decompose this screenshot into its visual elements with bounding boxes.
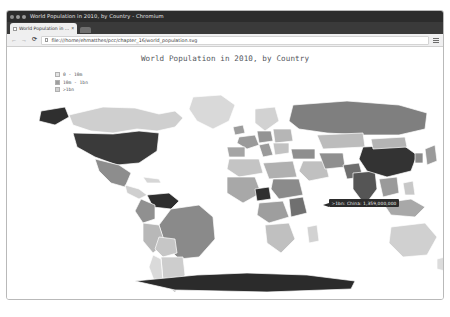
tab-close-icon[interactable]: × — [71, 26, 74, 31]
country-spain — [227, 147, 245, 157]
window-title: World Population in 2010, by Country - C… — [30, 11, 164, 22]
page-favicon-icon — [13, 27, 17, 31]
country-australia — [389, 223, 437, 257]
country-new-zealand — [437, 257, 443, 271]
country-balkans — [273, 143, 289, 155]
country-libya-egypt — [263, 161, 297, 179]
country-sudan-ethiopia — [271, 179, 303, 199]
tab-strip: World Population in ... × — [7, 22, 443, 34]
country-southern-africa — [265, 223, 295, 253]
country-bolivia — [155, 237, 177, 257]
country-nigeria — [255, 187, 271, 201]
chart-title: World Population in 2010, by Country — [7, 54, 443, 63]
country-alaska — [39, 107, 69, 125]
window-controls[interactable] — [10, 15, 26, 19]
country-canada — [69, 107, 183, 133]
country-poland-east-europe — [273, 129, 293, 143]
browser-toolbar: ← → ⟳ file:///home/ehmatthes/pcc/chapter… — [7, 34, 443, 47]
tab-label: World Population in ... — [19, 26, 69, 31]
country-greenland — [189, 95, 235, 129]
forward-arrow-icon[interactable]: → — [21, 37, 27, 43]
country-japan — [425, 145, 437, 165]
minimize-button-icon[interactable] — [10, 15, 14, 19]
country-korea — [415, 153, 423, 163]
maximize-button-icon[interactable] — [16, 15, 20, 19]
country-turkey — [291, 149, 315, 159]
page-content: World Population in 2010, by Country 0 -… — [7, 47, 443, 299]
new-tab-button[interactable] — [80, 27, 91, 33]
close-button-icon[interactable] — [22, 15, 26, 19]
browser-window: World Population in 2010, by Country - C… — [6, 10, 444, 300]
back-arrow-icon[interactable]: ← — [11, 37, 17, 43]
map-tooltip: >1bn: China: 1,359,000,000 — [329, 199, 399, 207]
document-icon — [45, 38, 48, 42]
country-scandinavia — [255, 107, 279, 131]
country-usa — [73, 131, 159, 165]
country-central-america — [125, 185, 147, 199]
world-map-svg[interactable] — [7, 77, 443, 292]
country-morocco-algeria — [227, 159, 263, 177]
country-sea-mainland — [379, 177, 399, 197]
reload-icon[interactable]: ⟳ — [31, 37, 37, 43]
country-russia — [289, 101, 427, 135]
window-titlebar: World Population in 2010, by Country - C… — [7, 11, 443, 22]
country-madagascar — [307, 225, 319, 243]
url-text: file:///home/ehmatthes/pcc/chapter_16/wo… — [51, 38, 197, 43]
screenshot-root: World Population in 2010, by Country - C… — [0, 0, 450, 317]
country-germany — [257, 131, 273, 143]
tab-world-population[interactable]: World Population in ... × — [10, 23, 77, 34]
country-east-africa — [289, 197, 307, 217]
address-bar[interactable]: file:///home/ehmatthes/pcc/chapter_16/wo… — [41, 36, 429, 45]
country-italy — [259, 143, 273, 157]
world-map[interactable] — [7, 77, 443, 292]
country-kazakhstan — [317, 133, 365, 149]
country-congo — [257, 201, 289, 223]
country-uk — [233, 125, 245, 135]
country-mongolia — [371, 137, 407, 149]
country-cuba — [143, 177, 161, 183]
country-philippines — [403, 181, 415, 195]
hamburger-menu-icon[interactable] — [433, 37, 439, 43]
